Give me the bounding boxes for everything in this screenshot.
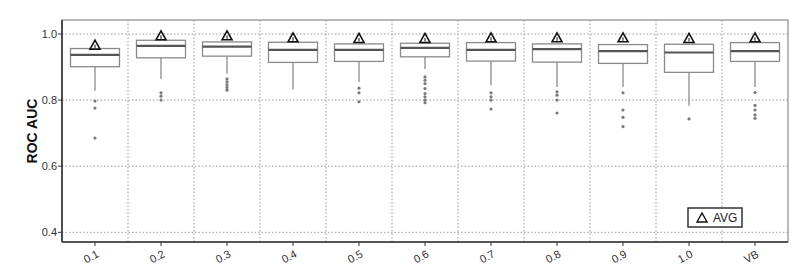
outlier-dot [159, 91, 162, 94]
roc-auc-boxplot-chart: 0.40.60.81.0 0.10.20.30.40.50.60.70.80.9… [0, 0, 808, 275]
outlier-dot [555, 99, 558, 102]
y-tick-label: 0.8 [42, 94, 57, 106]
outlier-dot [753, 117, 756, 120]
outlier-dot [93, 106, 96, 109]
outlier-dot [93, 99, 96, 102]
box-iqr [71, 49, 120, 67]
box-0.8 [533, 33, 582, 115]
box-iqr [335, 44, 384, 62]
x-tick-label: 0.8 [544, 248, 563, 266]
outlier-dot [687, 117, 690, 120]
outlier-dot [423, 92, 426, 95]
outlier-dot [159, 95, 162, 98]
box-iqr [203, 42, 252, 56]
outlier-dot [423, 82, 426, 85]
box-0.5 [335, 33, 384, 103]
outlier-dot [357, 87, 360, 90]
x-tick-label: 0.2 [148, 248, 167, 266]
outlier-dot [489, 95, 492, 98]
outlier-dot [225, 80, 228, 83]
box-VB [731, 33, 780, 120]
x-tick-label: 0.6 [412, 248, 431, 266]
box-iqr [599, 45, 648, 64]
x-tick-label: 0.3 [214, 248, 233, 266]
outlier-dot [423, 75, 426, 78]
outlier-dot [753, 108, 756, 111]
chart-canvas: 0.40.60.81.0 0.10.20.30.40.50.60.70.80.9… [0, 0, 808, 275]
legend-label-avg: AVG [713, 211, 737, 225]
y-tick-label: 0.6 [42, 160, 57, 172]
outlier-dot [621, 91, 624, 94]
legend: AVG [688, 208, 742, 227]
box-0.3 [203, 31, 252, 92]
box-1.0 [665, 33, 714, 120]
box-iqr [467, 43, 516, 62]
y-tick-label: 1.0 [42, 28, 57, 40]
outlier-dot [423, 79, 426, 82]
outlier-dot [489, 107, 492, 110]
outlier-dot [225, 89, 228, 92]
outlier-dot [423, 87, 426, 90]
outlier-dot [93, 137, 96, 140]
outlier-dot [753, 113, 756, 116]
outlier-dot [621, 108, 624, 111]
box-iqr [401, 43, 450, 57]
box-plots [71, 31, 780, 140]
outlier-dot [357, 100, 360, 103]
x-tick-label: 0.4 [280, 248, 299, 266]
box-0.4 [269, 33, 318, 89]
outlier-dot [489, 99, 492, 102]
outlier-dot [753, 104, 756, 107]
x-tick-label: 0.9 [610, 248, 629, 266]
outlier-dot [357, 91, 360, 94]
outlier-dot [423, 101, 426, 104]
box-0.6 [401, 33, 450, 104]
outlier-dot [555, 90, 558, 93]
box-iqr [137, 40, 186, 58]
x-tick-label: 0.7 [478, 248, 497, 266]
outlier-dot [753, 91, 756, 94]
x-tick-label: 0.1 [82, 248, 101, 266]
outlier-dot [159, 99, 162, 102]
y-axis-title: ROC AUC [24, 99, 40, 164]
outlier-dot [555, 111, 558, 114]
y-axis: 0.40.60.81.0 [42, 28, 62, 238]
outlier-dot [225, 77, 228, 80]
box-0.2 [137, 31, 186, 102]
box-0.7 [467, 33, 516, 111]
x-tick-label: VB [742, 248, 761, 265]
box-iqr [665, 44, 714, 72]
box-iqr [269, 42, 318, 62]
outlier-dot [423, 95, 426, 98]
box-iqr [533, 44, 582, 62]
box-0.1 [71, 40, 120, 140]
outlier-dot [621, 125, 624, 128]
outlier-dot [555, 94, 558, 97]
x-axis: 0.10.20.30.40.50.60.70.80.91.0VB [82, 242, 761, 265]
box-0.9 [599, 33, 648, 128]
x-tick-label: 1.0 [676, 248, 695, 266]
outlier-dot [621, 116, 624, 119]
x-tick-label: 0.5 [346, 248, 365, 266]
y-tick-label: 0.4 [42, 226, 57, 238]
outlier-dot [489, 91, 492, 94]
